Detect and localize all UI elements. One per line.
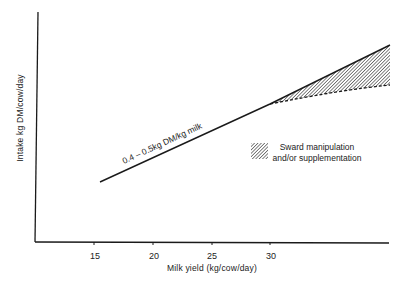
x-tick-label-15: 15 xyxy=(90,251,100,261)
x-tick-label-25: 25 xyxy=(207,251,217,261)
y-axis xyxy=(35,12,38,242)
chart-canvas: 15 20 25 30 Milk yield (kg/cow/day) Inta… xyxy=(0,0,411,290)
x-tick-label-20: 20 xyxy=(149,251,159,261)
legend-label-line2: and/or supplementation xyxy=(273,153,362,163)
x-axis-label: Milk yield (kg/cow/day) xyxy=(167,263,257,273)
y-axis-label: Intake kg DM/cow/day xyxy=(15,74,25,162)
legend-label-line1: Sward manipulation xyxy=(280,142,355,152)
x-tick-label-30: 30 xyxy=(266,251,276,261)
legend: Sward manipulation and/or supplementatio… xyxy=(251,142,362,163)
slope-annotation: 0.4 – 0.5kg DM/kg milk xyxy=(121,120,204,165)
axes xyxy=(35,12,389,243)
x-ticks: 15 20 25 30 xyxy=(90,242,276,261)
legend-swatch-hatch xyxy=(251,143,268,159)
